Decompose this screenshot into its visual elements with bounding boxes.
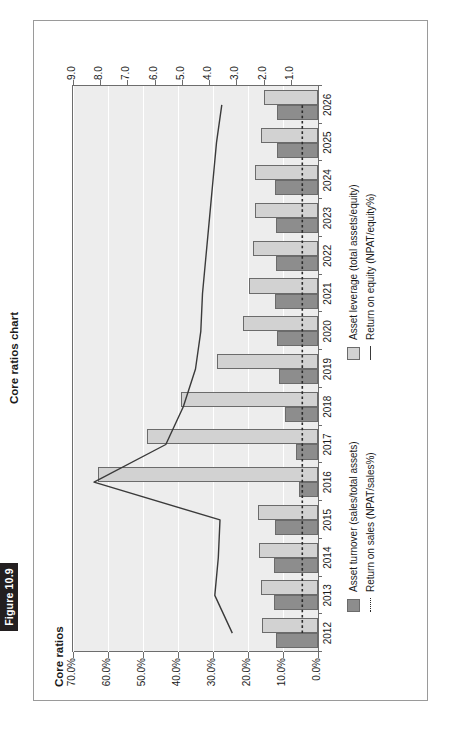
chart-area: Core ratios 0.0%10.0%20.0%30.0%40.0%50.0… [45, 50, 417, 690]
chart-rotor: Core ratios 0.0%10.0%20.0%30.0%40.0%50.0… [45, 50, 417, 690]
legend-swatch-bar-light [347, 347, 360, 360]
figure-number-label: Figure 10.9 [3, 568, 15, 626]
legend-group-secondary: Asset leverage (total assets/equity) Ret… [345, 184, 379, 360]
legend-item-return-on-equity: Return on equity (NPAT/equity%) [362, 184, 379, 360]
legend-item-return-on-sales: Return on sales (NPAT/sales%) [362, 441, 379, 612]
legend-group-primary: Asset turnover (sales/total assets) Retu… [345, 441, 379, 612]
legend-line-solid-icon [370, 346, 371, 360]
legend-line-dotted-icon [370, 598, 371, 612]
legend-label-return-on-sales: Return on sales (NPAT/sales%) [365, 452, 376, 592]
figure-number-badge: Figure 10.9 [0, 563, 18, 631]
legend-label-asset-leverage: Asset leverage (total assets/equity) [348, 184, 359, 340]
figure-caption: Core ratios chart [8, 312, 20, 404]
legend-label-asset-turnover: Asset turnover (sales/total assets) [348, 441, 359, 592]
legend-label-return-on-equity: Return on equity (NPAT/equity%) [365, 194, 376, 340]
legend-item-asset-leverage: Asset leverage (total assets/equity) [345, 184, 362, 360]
legend-item-asset-turnover: Asset turnover (sales/total assets) [345, 441, 362, 612]
return-on-equity-line [94, 105, 232, 633]
legend-swatch-bar-dark [347, 599, 360, 612]
